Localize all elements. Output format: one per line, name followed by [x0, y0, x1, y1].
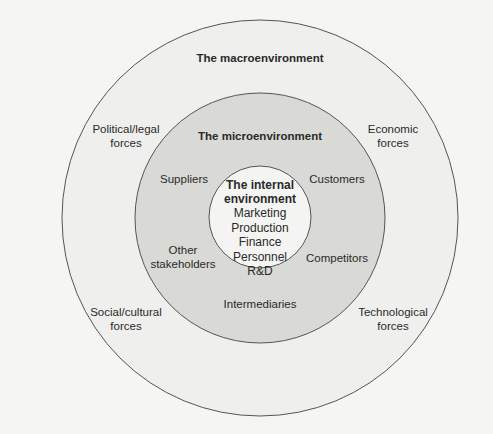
political-legal-line1: Political/legal — [92, 122, 159, 136]
social-cultural-line1: Social/cultural — [90, 305, 162, 319]
internal-function-rnd: R&D — [224, 264, 296, 279]
microenvironment-title: The microenvironment — [198, 129, 322, 143]
internal-environment-title-line2: environment — [224, 192, 296, 206]
technological-line1: Technological — [358, 305, 428, 319]
technological-forces-label: Technological forces — [358, 305, 428, 333]
intermediaries-label: Intermediaries — [224, 297, 297, 311]
internal-environment-block: The internal environment Marketing Produ… — [224, 178, 296, 279]
social-cultural-forces-label: Social/cultural forces — [90, 305, 162, 333]
political-legal-forces-label: Political/legal forces — [92, 122, 159, 150]
other-stakeholders-line2: stakeholders — [150, 257, 215, 271]
competitors-label: Competitors — [306, 251, 368, 265]
political-legal-line2: forces — [92, 136, 159, 150]
economic-line2: forces — [368, 136, 419, 150]
internal-environment-title-line1: The internal — [224, 178, 296, 192]
internal-function-personnel: Personnel — [224, 250, 296, 265]
economic-forces-label: Economic forces — [368, 122, 419, 150]
technological-line2: forces — [358, 319, 428, 333]
other-stakeholders-line1: Other — [150, 243, 215, 257]
internal-function-finance: Finance — [224, 235, 296, 250]
other-stakeholders-label: Other stakeholders — [150, 243, 215, 271]
social-cultural-line2: forces — [90, 319, 162, 333]
internal-function-production: Production — [224, 221, 296, 236]
marketing-environment-diagram: The macroenvironment Political/legal for… — [0, 0, 493, 434]
internal-function-marketing: Marketing — [224, 206, 296, 221]
customers-label: Customers — [309, 172, 365, 186]
suppliers-label: Suppliers — [160, 172, 208, 186]
macroenvironment-title: The macroenvironment — [196, 51, 323, 65]
economic-line1: Economic — [368, 122, 419, 136]
